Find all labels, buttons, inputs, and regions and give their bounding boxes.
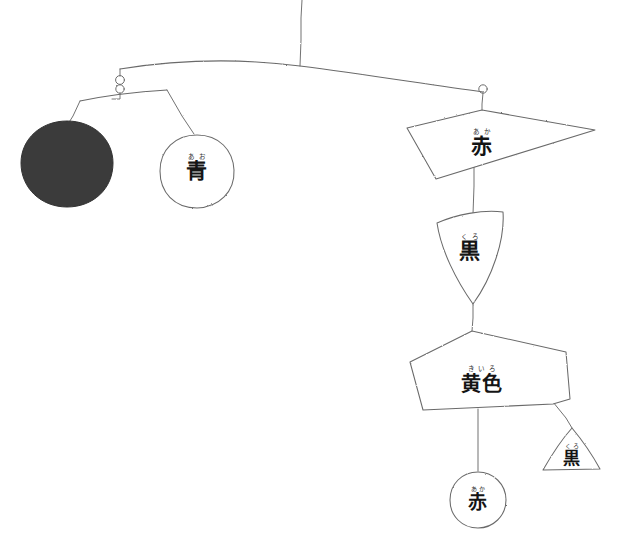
- string-kuro-to-kiiro: [472, 303, 473, 331]
- string-to-ao-circle: [167, 90, 194, 134]
- left-sub-bar-hitch: [112, 93, 120, 99]
- main-bar: [120, 61, 483, 92]
- string-to-dark-disc: [68, 101, 80, 124]
- kuro-fan-shape: [437, 211, 503, 304]
- aka-circle-bottom-shape: [450, 472, 506, 528]
- aka-quad-shape: [407, 110, 595, 179]
- suspension-string: [300, 0, 302, 66]
- mobile-drawing-canvas: [0, 0, 638, 560]
- kiiro-pentagon-shape: [410, 331, 570, 410]
- mobile-artwork: あお 青 あか 赤 くろ 黒 きいろ 黄色 くろ 黒 あか 赤: [0, 0, 638, 560]
- kuro-small-triangle-shape: [543, 428, 600, 470]
- dark-disc-shape: [21, 121, 113, 207]
- string-to-aka-quad: [482, 93, 483, 111]
- pivot-ring-left-upper: [116, 76, 125, 85]
- string-kiiro-to-kuro-small: [553, 402, 572, 428]
- ao-circle-shape: [160, 135, 234, 208]
- pivot-ring-left-lower: [116, 85, 124, 93]
